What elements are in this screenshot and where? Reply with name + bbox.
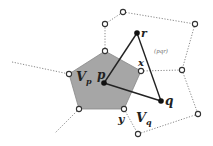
edge-x-right [141, 70, 182, 71]
label-y: y [117, 113, 126, 126]
voronoi-delaunay-diagram: p q r x y Vp Vq (pqr) [0, 0, 213, 146]
vertex-icon [192, 21, 197, 26]
edge-top [123, 12, 195, 24]
label-circle-pqr: (pqr) [154, 48, 168, 55]
edge-top-left [105, 12, 123, 24]
label-r: r [141, 27, 148, 40]
vertex-icon [195, 111, 200, 116]
vertex-icon [76, 106, 81, 111]
vertex-icon [66, 71, 71, 76]
site-q-icon [158, 98, 164, 104]
vertex-y-icon [121, 106, 126, 111]
label-q: q [165, 94, 173, 108]
label-vq: Vq [136, 110, 152, 127]
edge-right-lower [182, 70, 198, 114]
label-p: p [97, 68, 106, 82]
label-vq-sub: q [146, 117, 152, 127]
edge-bottom-left-outgoing [55, 109, 79, 133]
vertex-icon [135, 131, 140, 136]
vertex-icon [179, 67, 184, 72]
site-r-icon [134, 30, 140, 36]
label-x: x [137, 57, 145, 68]
vertex-icon [102, 21, 107, 26]
vertex-x-icon [138, 68, 143, 73]
edge-left-outgoing [12, 62, 69, 74]
vertex-icon [102, 48, 107, 53]
vertex-icon [120, 9, 125, 14]
edge-right-upper [182, 24, 195, 70]
label-vp-sub: p [86, 76, 92, 86]
